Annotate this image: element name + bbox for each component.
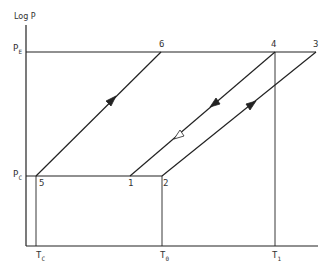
t0-label: T0 bbox=[160, 251, 169, 260]
point-6-label: 6 bbox=[159, 40, 164, 49]
path-1-4 bbox=[130, 52, 275, 176]
path-5-6 bbox=[36, 52, 161, 176]
path-2-3 bbox=[162, 52, 316, 176]
tc-label: TC bbox=[36, 251, 45, 260]
t1-label: T1 bbox=[272, 251, 281, 260]
point-5-label: 5 bbox=[39, 179, 44, 188]
point-1-label: 1 bbox=[128, 179, 133, 188]
point-4-label: 4 bbox=[271, 40, 276, 49]
point-2-label: 2 bbox=[163, 179, 168, 188]
arrow-down-icon bbox=[210, 98, 220, 107]
pe-label: PE bbox=[13, 44, 22, 53]
cycle-diagram bbox=[0, 0, 331, 270]
y-axis-label: Log P bbox=[14, 12, 36, 21]
arrow-up-icon bbox=[246, 101, 256, 110]
pc-label: PC bbox=[13, 170, 22, 179]
point-3-label: 3 bbox=[313, 40, 318, 49]
